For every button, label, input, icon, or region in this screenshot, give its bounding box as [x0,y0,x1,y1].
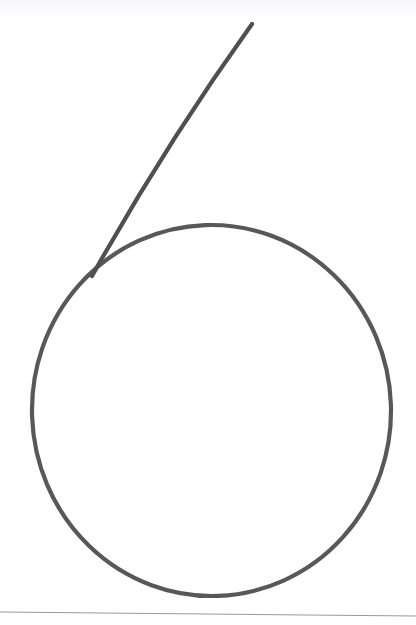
digit-drawing-canvas [0,0,416,625]
oval-loop-stroke [26,219,398,602]
scan-page [0,0,416,625]
diagonal-stem-group [92,24,252,276]
diagonal-stem-stroke [92,24,252,276]
page-edge-rule [0,612,416,616]
oval-loop-group [26,219,398,602]
ink-layer [0,0,416,625]
